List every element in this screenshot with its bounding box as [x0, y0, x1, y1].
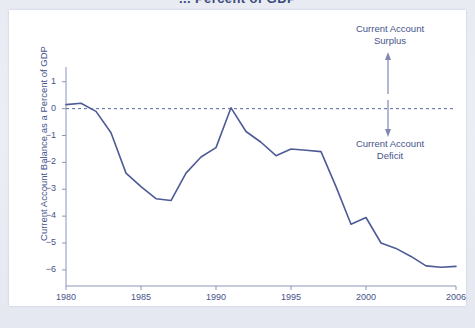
x-tick-label: 1985 [121, 292, 161, 302]
x-axis-ticks [66, 286, 456, 290]
chart-plot-area: Current Account Balance as a Percent of … [9, 10, 466, 306]
chart-card: Current Account Balance as a Percent of … [9, 10, 466, 306]
x-tick-label: 2000 [346, 292, 386, 302]
x-tick-label: 1990 [196, 292, 236, 302]
x-tick-label: 1980 [46, 292, 86, 302]
page-title-clipped: ... Percent of GDP [0, 0, 475, 9]
annotation-deficit-line1: Current Account [325, 138, 455, 150]
page-title: ... Percent of GDP [0, 0, 475, 6]
y-tick-label: 1 [34, 76, 56, 86]
y-tick-label: 0 [34, 103, 56, 113]
annotation-surplus: Current Account Surplus [325, 23, 455, 47]
y-tick-label: −5 [34, 237, 56, 247]
y-tick-label: −2 [34, 156, 56, 166]
y-axis-ticks [62, 82, 66, 270]
y-tick-label: −4 [34, 210, 56, 220]
chart-page: ... Percent of GDP [0, 0, 475, 328]
annotation-surplus-line1: Current Account [325, 23, 455, 35]
data-series-line [66, 103, 456, 267]
y-tick-label: −1 [34, 130, 56, 140]
annotation-deficit-line2: Deficit [325, 150, 455, 162]
x-tick-label: 1995 [271, 292, 311, 302]
x-tick-label: 2006 [436, 292, 475, 302]
y-axis-title: Current Account Balance as a Percent of … [38, 34, 49, 254]
arrow-down-icon [385, 100, 391, 137]
arrow-up-icon [385, 52, 391, 94]
annotation-surplus-line2: Surplus [325, 35, 455, 47]
y-tick-label: −3 [34, 183, 56, 193]
annotation-deficit: Current Account Deficit [325, 138, 455, 162]
y-tick-label: −6 [34, 264, 56, 274]
